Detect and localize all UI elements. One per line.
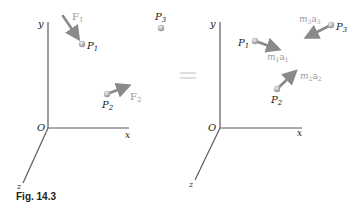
- z-axis-label: z: [16, 182, 22, 191]
- origin-label: O: [37, 122, 45, 133]
- origin-label: O: [208, 122, 216, 133]
- effective-force-label-3: m3a3: [299, 14, 321, 25]
- effective-force-arrow-2: [277, 72, 295, 89]
- particle-p3: [158, 25, 164, 31]
- particle-label-p2: P2: [270, 94, 283, 107]
- particle-label-p1: P1: [86, 40, 98, 53]
- z-axis: [195, 128, 220, 180]
- z-axis-label: z: [188, 180, 194, 189]
- equals-sign: [180, 73, 196, 78]
- x-axis-label: x: [297, 128, 302, 138]
- effective-force-label-1: m1a1: [267, 52, 289, 63]
- effective-force-arrow-1: [255, 41, 278, 49]
- figure-canvas: y x z O F1 P1 P2 F2 P3 y x z O P1 m1a1: [0, 0, 361, 208]
- particle-label-p2: P2: [101, 99, 114, 112]
- particle-label-p3: P3: [335, 21, 348, 34]
- particle-label-p3: P3: [154, 11, 167, 24]
- particle-p1: [252, 38, 258, 44]
- left-panel: y x z O F1 P1 P2 F2 P3: [16, 11, 167, 191]
- z-axis: [23, 128, 48, 183]
- particle-p2: [274, 86, 280, 92]
- particle-p2: [104, 91, 110, 97]
- particle-p3: [328, 22, 334, 28]
- figure-caption: Fig. 14.3: [16, 191, 56, 202]
- y-axis-label: y: [209, 18, 216, 29]
- effective-force-arrow-3: [307, 25, 331, 37]
- y-axis-label: y: [37, 18, 44, 29]
- force-arrow-f2: [107, 86, 128, 94]
- force-label-f2: F2: [130, 91, 141, 104]
- particle-p1: [79, 41, 85, 47]
- x-axis-label: x: [125, 130, 130, 140]
- force-label-f1: F1: [72, 11, 83, 24]
- effective-force-label-2: m2a2: [300, 71, 322, 82]
- right-panel: y x z O P1 m1a1 m3a3 P3 m2a2 P2: [188, 14, 348, 189]
- particle-label-p1: P1: [237, 37, 249, 50]
